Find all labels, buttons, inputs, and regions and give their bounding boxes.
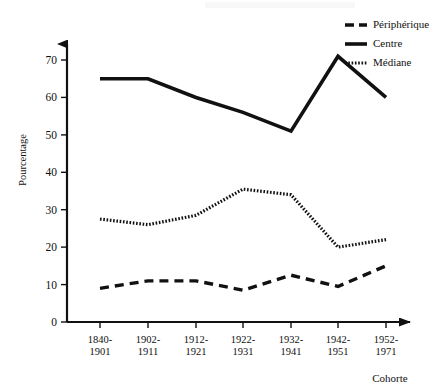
y-tick-label: 60 bbox=[46, 91, 58, 103]
x-tick-label-line1: 1912- bbox=[184, 334, 209, 345]
line-chart-canvas: 0 10 20 30 40 50 60 70 Pourcentage 1840-… bbox=[0, 0, 446, 392]
x-tick-label-line2: 1911 bbox=[138, 346, 159, 357]
series-line-peripherique bbox=[100, 266, 386, 290]
x-tick-label-line1: 1952- bbox=[374, 334, 399, 345]
y-axis-title: Pourcentage bbox=[17, 134, 28, 186]
y-tick-label: 40 bbox=[46, 166, 58, 178]
x-tick-label-line1: 1932- bbox=[279, 334, 304, 345]
y-axis-tick-labels: 0 10 20 30 40 50 60 70 bbox=[46, 54, 58, 328]
x-tick-label-line2: 1901 bbox=[90, 346, 111, 357]
legend-item-centre: Centre bbox=[345, 37, 402, 49]
y-tick-label: 30 bbox=[46, 204, 58, 216]
chart-legend: Périphérique Centre Médiane bbox=[345, 18, 429, 68]
y-tick-label: 50 bbox=[46, 129, 58, 141]
legend-label: Centre bbox=[373, 37, 402, 49]
x-tick-label-line2: 1941 bbox=[281, 346, 302, 357]
y-tick-label: 20 bbox=[46, 241, 58, 253]
legend-item-mediane: Médiane bbox=[345, 56, 412, 68]
legend-item-peripherique: Périphérique bbox=[345, 18, 429, 30]
y-tick-label: 10 bbox=[46, 279, 58, 291]
series-line-mediane bbox=[100, 189, 386, 247]
legend-label: Médiane bbox=[373, 56, 412, 68]
x-tick-label-line1: 1902- bbox=[136, 334, 161, 345]
x-tick-label-line2: 1931 bbox=[233, 346, 254, 357]
y-tick-label: 70 bbox=[46, 54, 58, 66]
series-line-centre bbox=[100, 56, 386, 131]
x-tick-label-line1: 1942- bbox=[326, 334, 351, 345]
x-tick-label-line2: 1971 bbox=[376, 346, 397, 357]
x-tick-label-line2: 1921 bbox=[186, 346, 207, 357]
x-tick-label-line1: 1840- bbox=[88, 334, 113, 345]
chart-figure: 0 10 20 30 40 50 60 70 Pourcentage 1840-… bbox=[0, 0, 446, 392]
legend-label: Périphérique bbox=[373, 18, 429, 30]
y-tick-label: 0 bbox=[51, 316, 57, 328]
x-axis-tick-labels: 1840- 1901 1902- 1911 1912- 1921 1922- 1… bbox=[88, 334, 399, 357]
x-tick-label-line1: 1922- bbox=[231, 334, 256, 345]
x-axis-title: Cohorte bbox=[372, 372, 408, 384]
x-tick-label-line2: 1951 bbox=[328, 346, 349, 357]
